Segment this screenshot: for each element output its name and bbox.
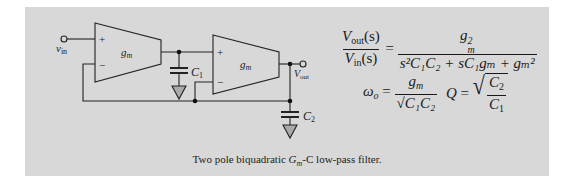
omega-equation: ωo = gm √C₁C₂ [363,73,437,112]
ground-icon [283,125,297,138]
output-terminal [300,61,306,67]
junction-dot [177,50,182,55]
junction-dot [288,99,293,104]
q-equation: Q = √ C2 C1 [446,73,508,117]
input-terminal [61,36,67,42]
ground-icon [172,86,186,99]
amp2-plus-sign: + [217,46,223,58]
amp2-minus-sign: − [217,76,223,88]
amp1-plus-sign: + [99,33,105,45]
amp1-minus-sign: − [99,59,105,71]
figure-caption: Two pole biquadratic Gm-C low-pass filte… [0,153,574,168]
amp2-gm-label: gm [240,58,252,72]
vin-label: vin [56,42,67,56]
transfer-function-equation: Vout(s) Vin(s) = g2m s²C₁C₂ + sC₁gₘ + gₘ… [340,27,537,72]
c2-label: C2 [303,109,315,124]
junction-dot [288,62,293,67]
lhs-fraction: Vout(s) Vin(s) [340,28,382,71]
amp2-minus-wire [195,82,213,101]
c1-label: C1 [191,65,203,80]
amp1-gm-label: gm [121,46,133,60]
equals-sign: = [386,40,394,56]
junction-dot [193,99,198,104]
vout-label: Vout [294,68,309,81]
rhs-fraction: g2m s²C₁C₂ + sC₁gₘ + gₘ² [398,27,537,72]
